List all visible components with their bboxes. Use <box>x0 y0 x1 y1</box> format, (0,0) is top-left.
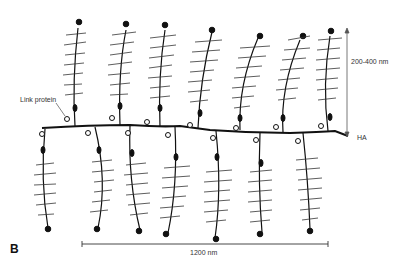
length-label: 1200 nm <box>190 249 217 256</box>
length-scale-bar <box>82 241 328 247</box>
aggrecan-aggregate-diagram <box>0 0 405 273</box>
monomer-down-4 <box>160 127 190 237</box>
monomer-up-7 <box>316 28 342 131</box>
monomer-down-1 <box>34 129 56 232</box>
upper-monomers <box>63 19 342 132</box>
ha-label: HA <box>357 134 367 141</box>
monomer-up-2 <box>108 21 136 125</box>
panel-label: B <box>10 242 19 256</box>
link-protein-leader <box>56 103 65 116</box>
monomer-up-3 <box>148 22 176 127</box>
monomer-down-3 <box>124 126 150 234</box>
monomer-up-1 <box>63 19 86 126</box>
monomer-down-7 <box>296 133 322 234</box>
monomer-up-6 <box>276 33 310 132</box>
lower-monomers <box>34 126 322 242</box>
height-scale-arrow <box>345 28 349 137</box>
monomer-up-4 <box>188 27 222 128</box>
link-protein-label: Link protein <box>20 96 56 103</box>
monomer-down-5 <box>204 131 232 242</box>
monomer-down-2 <box>90 127 114 232</box>
monomer-down-6 <box>248 133 272 237</box>
height-range-label: 200-400 nm <box>351 58 388 65</box>
monomer-up-5 <box>232 33 270 130</box>
